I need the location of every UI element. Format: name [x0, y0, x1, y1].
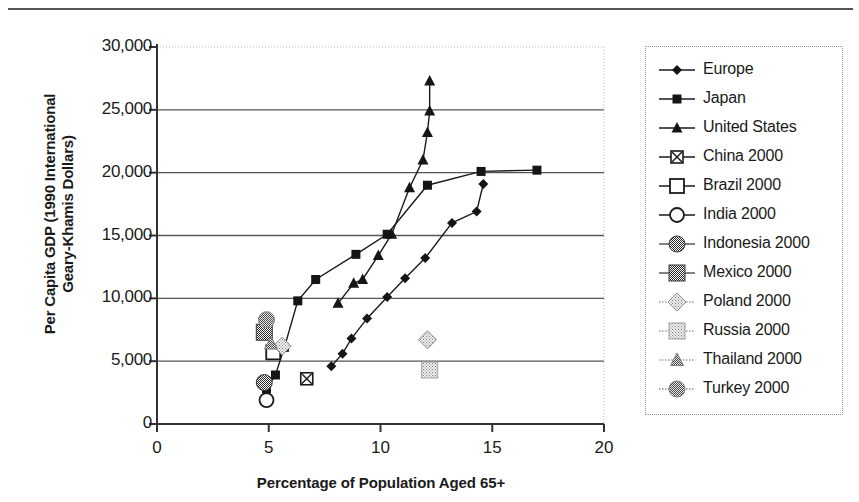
series-indonesia-2000 [256, 375, 272, 391]
legend-key-light-triangle-icon [657, 349, 697, 369]
legend-key-open-circle-icon [657, 204, 697, 224]
legend-label: United States [697, 118, 796, 136]
marker-filled-triangle [357, 273, 368, 284]
marker-light-square [422, 362, 438, 378]
series-russia-2000 [422, 362, 438, 378]
marker-filled-triangle [373, 250, 384, 260]
legend-item-poland-2000[interactable]: Poland 2000 [646, 286, 842, 315]
marker-filled-square [271, 370, 280, 379]
scatter-chart: Per Capita GDP (1990 International Geary… [0, 0, 640, 502]
marker-filled-triangle [422, 126, 433, 137]
legend-key-light-circle-icon [657, 378, 697, 398]
legend-label: Mexico 2000 [697, 263, 792, 281]
legend-item-thailand-2000[interactable]: Thailand 2000 [646, 344, 842, 373]
legend-item-turkey-2000[interactable]: Turkey 2000 [646, 373, 842, 402]
y-tick-label: 15,000 [60, 225, 152, 245]
x-tick-label: 20 [574, 438, 634, 458]
marker-open-circle [670, 208, 684, 222]
marker-filled-diamond [472, 207, 482, 217]
marker-x-square [671, 151, 683, 163]
legend-item-brazil-2000[interactable]: Brazil 2000 [646, 170, 842, 199]
series-line [338, 81, 430, 303]
series-china-2000 [301, 373, 313, 385]
x-axis-title: Percentage of Population Aged 65+ [157, 474, 605, 491]
legend-item-china-2000[interactable]: China 2000 [646, 141, 842, 170]
legend-key-shaded-square-icon [657, 262, 697, 282]
x-tick-label: 15 [462, 438, 522, 458]
marker-light-triangle [671, 353, 684, 366]
marker-light-circle [669, 381, 685, 397]
x-tick-label: 0 [127, 438, 187, 458]
marker-filled-diamond [672, 65, 682, 75]
y-tick-label: 0 [60, 413, 152, 433]
y-tick-label: 5,000 [60, 350, 152, 370]
marker-light-square [669, 323, 685, 339]
legend-key-light-diamond-icon [657, 291, 697, 311]
legend-item-india-2000[interactable]: India 2000 [646, 199, 842, 228]
series-europe [326, 179, 488, 371]
legend-label: Brazil 2000 [697, 176, 781, 194]
legend-item-russia-2000[interactable]: Russia 2000 [646, 315, 842, 344]
legend-item-mexico-2000[interactable]: Mexico 2000 [646, 257, 842, 286]
marker-filled-square [293, 296, 302, 305]
marker-filled-square [351, 250, 360, 259]
marker-filled-triangle [348, 277, 359, 288]
marker-filled-triangle [424, 75, 435, 86]
legend-label: Russia 2000 [697, 321, 790, 339]
marker-filled-square [423, 181, 432, 190]
legend-label: Europe [697, 60, 753, 78]
legend-key-open-square-icon [657, 175, 697, 195]
legend-label: Thailand 2000 [697, 350, 802, 368]
series-india-2000 [260, 393, 274, 407]
y-tick-label: 10,000 [60, 287, 152, 307]
legend-label: India 2000 [697, 205, 776, 223]
y-axis-title-line1: Per Capita GDP (1990 International [41, 49, 59, 379]
chart-page: Per Capita GDP (1990 International Geary… [0, 0, 859, 502]
legend-key-shaded-circle-icon [657, 233, 697, 253]
x-tick-label: 10 [351, 438, 411, 458]
legend-key-filled-square-icon [657, 88, 697, 108]
legend-label: Japan [697, 89, 746, 107]
legend-item-europe[interactable]: Europe [646, 54, 842, 83]
marker-filled-square [311, 275, 320, 284]
marker-filled-square [532, 166, 541, 175]
legend-item-united-states[interactable]: United States [646, 112, 842, 141]
marker-filled-triangle [404, 182, 415, 193]
marker-shaded-circle [669, 236, 685, 252]
series-turkey-2000 [259, 312, 275, 328]
x-tick-label: 5 [239, 438, 299, 458]
legend-item-japan[interactable]: Japan [646, 83, 842, 112]
marker-filled-triangle [417, 154, 428, 165]
legend-item-indonesia-2000[interactable]: Indonesia 2000 [646, 228, 842, 257]
legend-key-light-square-icon [657, 320, 697, 340]
chart-legend: EuropeJapanUnited StatesChina 2000Brazil… [645, 46, 843, 415]
legend-label: China 2000 [697, 147, 783, 165]
marker-shaded-square [669, 265, 685, 281]
y-tick-label: 25,000 [60, 99, 152, 119]
marker-light-circle [259, 312, 275, 328]
marker-x-square [301, 373, 313, 385]
marker-shaded-circle [256, 375, 272, 391]
legend-key-x-square-icon [657, 146, 697, 166]
marker-filled-triangle [672, 122, 683, 133]
legend-key-filled-diamond-icon [657, 59, 697, 79]
marker-open-circle [260, 393, 274, 407]
marker-filled-square [673, 94, 682, 103]
marker-filled-diamond [478, 179, 488, 189]
y-tick-label: 20,000 [60, 162, 152, 182]
marker-light-diamond [668, 293, 686, 311]
y-tick-label: 30,000 [60, 36, 152, 56]
marker-open-square [670, 179, 684, 193]
legend-label: Indonesia 2000 [697, 234, 810, 252]
marker-light-diamond [418, 331, 436, 349]
legend-label: Poland 2000 [697, 292, 791, 310]
legend-key-filled-triangle-icon [657, 117, 697, 137]
marker-filled-square [477, 167, 486, 176]
legend-label: Turkey 2000 [697, 379, 789, 397]
